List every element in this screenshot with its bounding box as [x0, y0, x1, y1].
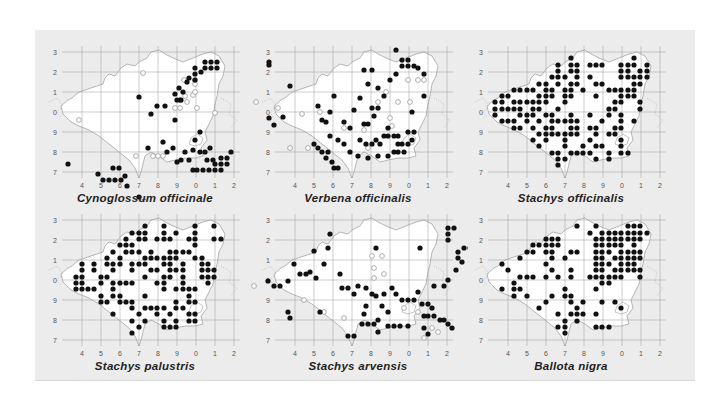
x-tick-label: 4 — [506, 182, 510, 189]
record-dot — [192, 236, 197, 241]
record-dot — [593, 143, 598, 148]
record-dot — [631, 236, 636, 241]
record-dot — [385, 323, 390, 328]
record-dot — [631, 55, 636, 60]
record-dot — [415, 289, 420, 294]
county-outline — [61, 218, 225, 346]
record-dot — [395, 149, 400, 154]
record-dot — [154, 267, 159, 272]
distribution-map-ballota-nigra: 4567890123210987Ballota nigra — [461, 208, 681, 388]
record-dot — [612, 87, 617, 92]
record-dot — [192, 299, 197, 304]
record-dot — [351, 291, 356, 296]
map-canvas: 4567890123210987 — [461, 40, 681, 200]
record-dot — [562, 156, 567, 161]
record-dot — [618, 305, 623, 310]
x-tick-label: 2 — [232, 182, 236, 189]
record-dot — [574, 223, 579, 228]
record-dot — [625, 236, 630, 241]
record-dot — [574, 125, 579, 130]
record-dot — [568, 112, 573, 117]
record-dot — [211, 267, 216, 272]
record-dot — [536, 118, 541, 123]
record-dot — [499, 106, 504, 111]
record-dot — [198, 69, 203, 74]
record-dot — [555, 150, 560, 155]
record-dot — [543, 87, 548, 92]
record-dot — [357, 137, 362, 142]
record-dot — [192, 242, 197, 247]
record-dot — [593, 131, 598, 136]
record-dot — [373, 137, 378, 142]
record-dot — [192, 223, 197, 228]
record-dot — [568, 87, 573, 92]
record-dot — [637, 230, 642, 235]
record-dot — [365, 155, 370, 160]
record-dot — [587, 230, 592, 235]
record-dot — [65, 161, 70, 166]
record-dot — [612, 230, 617, 235]
record-dot — [405, 323, 410, 328]
y-tick-label: 1 — [266, 89, 270, 96]
record-dot — [167, 255, 172, 260]
record-dot — [192, 286, 197, 291]
record-dot — [631, 93, 636, 98]
x-tick-label: 2 — [658, 350, 662, 357]
record-dot — [199, 267, 204, 272]
record-dot — [511, 106, 516, 111]
record-dot — [612, 125, 617, 130]
record-dot — [129, 267, 134, 272]
y-tick-label: 3 — [53, 217, 57, 224]
record-dot — [136, 249, 141, 254]
record-dot — [599, 118, 604, 123]
y-tick-label: 3 — [479, 49, 483, 56]
record-dot — [593, 81, 598, 86]
record-dot — [361, 311, 366, 316]
record-dot — [405, 297, 410, 302]
record-dot — [593, 311, 598, 316]
record-dot — [599, 299, 604, 304]
record-dot — [98, 274, 103, 279]
record-dot — [124, 183, 129, 188]
record-dot — [142, 293, 147, 298]
record-dot — [202, 65, 207, 70]
record-dot — [142, 274, 147, 279]
record-dot — [172, 117, 177, 122]
record-dot — [625, 230, 630, 235]
record-dot — [543, 93, 548, 98]
old-record-dot — [388, 116, 393, 121]
record-dot — [599, 324, 604, 329]
x-tick-label: 1 — [639, 182, 643, 189]
record-dot — [562, 99, 567, 104]
record-dot — [425, 331, 430, 336]
record-dot — [631, 118, 636, 123]
record-dot — [174, 159, 179, 164]
record-dot — [224, 161, 229, 166]
record-dot — [154, 255, 159, 260]
record-dot — [530, 249, 535, 254]
record-dot — [618, 99, 623, 104]
record-dot — [129, 305, 134, 310]
record-dot — [536, 305, 541, 310]
x-tick-label: 4 — [293, 182, 297, 189]
record-dot — [329, 159, 334, 164]
record-dot — [453, 267, 458, 272]
record-dot — [593, 236, 598, 241]
record-dot — [499, 118, 504, 123]
old-record-dot — [422, 78, 427, 83]
old-record-dot — [288, 146, 293, 151]
record-dot — [186, 286, 191, 291]
record-dot — [606, 242, 611, 247]
record-dot — [593, 255, 598, 260]
record-dot — [524, 249, 529, 254]
record-dot — [375, 317, 380, 322]
record-dot — [568, 293, 573, 298]
record-dot — [161, 305, 166, 310]
record-dot — [325, 149, 330, 154]
record-dot — [129, 318, 134, 323]
record-dot — [625, 150, 630, 155]
record-dot — [142, 223, 147, 228]
old-record-dot — [318, 110, 323, 115]
record-dot — [517, 106, 522, 111]
old-record-dot — [276, 106, 281, 111]
